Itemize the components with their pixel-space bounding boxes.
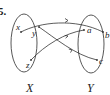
element-b: b [105, 30, 110, 40]
element-x: x [15, 22, 20, 32]
arrowhead-icon [65, 35, 68, 38]
mapping-diagram: 5. x y z a b c X Y [0, 0, 110, 95]
arrow-z-to-a [31, 30, 84, 60]
element-a: a [87, 25, 92, 35]
set-y-label: Y [87, 81, 95, 95]
arrowhead-icon [69, 49, 72, 53]
problem-number: 5. [0, 5, 7, 17]
element-y: y [31, 28, 36, 38]
set-x-label: X [25, 81, 34, 95]
arrowhead-icon [65, 19, 68, 23]
element-c: c [99, 56, 103, 66]
set-x-ellipse [11, 14, 37, 72]
element-z: z [25, 60, 30, 70]
